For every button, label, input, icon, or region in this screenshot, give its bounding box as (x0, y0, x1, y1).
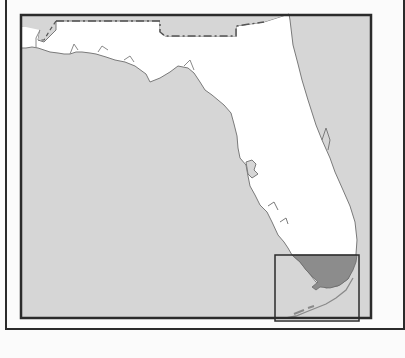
florida-map (0, 0, 386, 358)
